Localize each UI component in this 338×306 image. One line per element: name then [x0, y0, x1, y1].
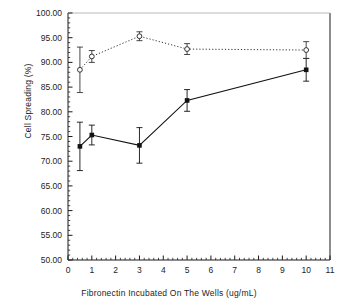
data-point-solid-filled-square-1 [89, 125, 95, 145]
chart-figure: Cell Spreading (%) Fibronectin Incubated… [0, 0, 338, 306]
plot-area [0, 0, 338, 306]
data-point-solid-filled-square-4 [303, 58, 309, 81]
data-point-dotted-open-circle-4 [303, 42, 309, 59]
data-point-dotted-open-circle-2 [136, 32, 142, 41]
data-point-solid-filled-square-0 [77, 122, 83, 170]
data-point-dotted-open-circle-3 [184, 44, 190, 55]
data-point-dotted-open-circle-1 [89, 51, 95, 63]
data-point-dotted-open-circle-0 [77, 47, 83, 92]
data-point-solid-filled-square-3 [184, 90, 190, 112]
data-point-solid-filled-square-2 [136, 128, 142, 164]
